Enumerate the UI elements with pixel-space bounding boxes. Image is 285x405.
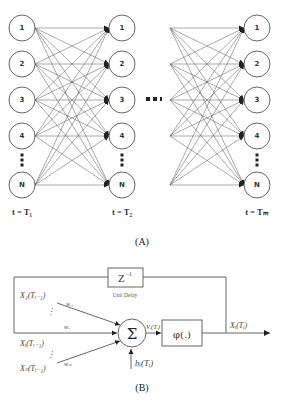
neuron-label: 3 [255, 96, 260, 104]
weight-label-n: wᵢₙ [64, 361, 72, 367]
neuron-label: 1 [20, 24, 25, 32]
vertical-ellipsis-dot [121, 154, 124, 157]
horizontal-ellipsis-icon [146, 97, 162, 101]
net-label: Vᵢ(Tᵢ) [146, 323, 160, 331]
input-label-1: X₁(Tᵢ₋₁) [19, 291, 46, 300]
neuron-label: 4 [20, 132, 25, 140]
vertical-ellipsis-dot [21, 159, 24, 162]
neuron-label: 2 [20, 60, 25, 68]
unit-delay-box [108, 268, 143, 287]
panel-a-network: 1234N1234N1234N t = T₁ t = T₂ t = Tₘ (A) [9, 15, 270, 248]
neuron-label: N [119, 181, 125, 189]
neuron-label: 3 [20, 96, 25, 104]
neuron-label: 1 [120, 24, 125, 32]
neuron-label: 4 [255, 132, 260, 140]
diagram-canvas: 1234N1234N1234N t = T₁ t = T₂ t = Tₘ (A)… [0, 0, 285, 405]
input-label-n: Xₙ(Tᵢ₋₁) [19, 364, 46, 373]
activation-function-label: φ(.) [173, 329, 191, 340]
caption-b: (B) [135, 382, 148, 394]
neuron-label: N [19, 181, 25, 189]
edges-t1-t2 [35, 28, 109, 185]
vertical-ellipsis-dot [21, 164, 24, 167]
vertical-ellipsis-dot [121, 159, 124, 162]
neuron-label: N [254, 181, 260, 189]
input-arrow-n [57, 341, 120, 363]
neuron-label: 2 [255, 60, 260, 68]
weight-label-i: wᵢᵢ [64, 324, 70, 330]
vertical-ellipsis-icon: ⋮ [47, 307, 55, 316]
unit-delay-label: Unit Delay [113, 292, 138, 298]
time-label-tm: t = Tₘ [245, 207, 268, 217]
vertical-ellipsis-icon-2: ⋮ [47, 350, 55, 359]
panel-b-neuron-model: Z -1 Unit Delay X₁(Tᵢ₋₁) wᵢ₁ ⋮ wᵢᵢ Xᵢ(Tᵢ… [14, 268, 270, 394]
neuron-label: 1 [255, 24, 260, 32]
vertical-ellipsis-dot [21, 154, 24, 157]
unit-delay-z: Z [118, 272, 125, 284]
bias-label: bᵢ(Tᵢ) [135, 358, 153, 368]
vertical-ellipsis-dot [121, 164, 124, 167]
time-label-t2: t = T₂ [112, 207, 132, 217]
time-label-t1: t = T₁ [12, 207, 32, 217]
neuron-label: 3 [120, 96, 125, 104]
input-label-i: Xᵢ(Tᵢ₋₁) [19, 339, 44, 348]
vertical-ellipsis-dot [256, 154, 259, 157]
output-label: Xᵢ(Tᵢ) [229, 321, 248, 330]
vertical-ellipsis-dot [256, 159, 259, 162]
weight-label-1: wᵢ₁ [66, 301, 73, 307]
edges-tm-1-tm [170, 28, 244, 185]
sigma-icon: Σ [127, 325, 138, 343]
unit-delay-exponent: -1 [127, 271, 132, 277]
neuron-label: 2 [120, 60, 125, 68]
caption-a: (A) [135, 236, 149, 248]
neuron-label: 4 [120, 132, 125, 140]
vertical-ellipsis-dot [256, 164, 259, 167]
